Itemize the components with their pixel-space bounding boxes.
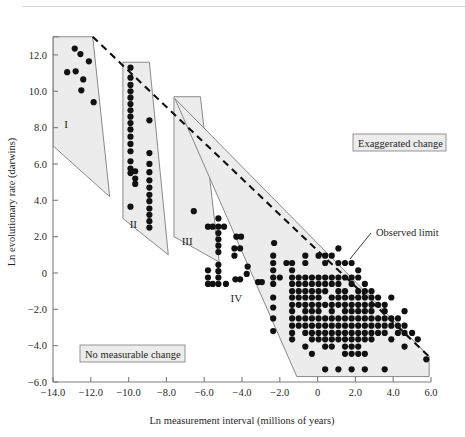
data-point bbox=[329, 336, 335, 342]
no-measurable-change-label: No measurable change bbox=[85, 349, 181, 360]
data-point bbox=[315, 302, 321, 308]
data-point bbox=[362, 315, 368, 321]
data-point bbox=[221, 224, 227, 230]
data-point bbox=[302, 253, 308, 259]
data-point bbox=[309, 323, 315, 329]
data-point bbox=[335, 245, 341, 251]
data-point bbox=[146, 161, 152, 167]
data-point bbox=[127, 75, 133, 81]
data-point bbox=[329, 323, 335, 329]
data-point bbox=[289, 323, 295, 329]
data-point bbox=[355, 351, 361, 357]
region-label-IV: IV bbox=[230, 292, 242, 304]
data-point bbox=[302, 330, 308, 336]
data-point bbox=[355, 323, 361, 329]
data-point bbox=[289, 267, 295, 273]
data-point bbox=[395, 315, 401, 321]
observed-limit-label: Observed limit bbox=[376, 227, 439, 238]
data-point bbox=[342, 351, 348, 357]
data-point bbox=[64, 69, 70, 75]
data-point bbox=[205, 281, 211, 287]
annotation-no-measurable-change: No measurable change bbox=[80, 345, 185, 362]
data-point bbox=[355, 302, 361, 308]
data-point bbox=[127, 107, 133, 113]
data-point bbox=[231, 253, 237, 259]
data-point bbox=[342, 302, 348, 308]
figure-container: −6.0−4.0−2.002.04.06.08.010.012.0−14.0−1… bbox=[0, 0, 465, 437]
data-point bbox=[355, 308, 361, 314]
data-point bbox=[296, 302, 302, 308]
data-point bbox=[296, 323, 302, 329]
region-label-I: I bbox=[64, 118, 68, 130]
data-point bbox=[296, 281, 302, 287]
data-point bbox=[132, 181, 138, 187]
y-axis-title: Ln evolutionary rate (darwins) bbox=[6, 137, 18, 266]
y-tick-label: 0 bbox=[42, 268, 47, 279]
data-point bbox=[315, 294, 321, 300]
data-point bbox=[302, 260, 308, 266]
data-point bbox=[309, 330, 315, 336]
data-point bbox=[355, 336, 361, 342]
y-tick-label: 10.0 bbox=[29, 86, 47, 97]
data-point bbox=[349, 351, 355, 357]
data-point bbox=[146, 169, 152, 175]
data-point bbox=[355, 267, 361, 273]
data-point bbox=[388, 315, 394, 321]
data-point bbox=[349, 343, 355, 349]
data-point bbox=[127, 95, 133, 101]
data-point bbox=[342, 323, 348, 329]
data-point bbox=[401, 343, 407, 349]
data-point bbox=[302, 281, 308, 287]
data-point bbox=[349, 260, 355, 266]
data-point bbox=[309, 288, 315, 294]
x-tick-label: 0 bbox=[315, 387, 320, 398]
data-point bbox=[401, 323, 407, 329]
data-point bbox=[72, 45, 78, 51]
data-point bbox=[349, 274, 355, 280]
data-point bbox=[270, 267, 276, 273]
data-point bbox=[127, 65, 133, 71]
data-point bbox=[362, 336, 368, 342]
data-point bbox=[289, 302, 295, 308]
data-point bbox=[237, 276, 243, 282]
data-point bbox=[388, 336, 394, 342]
data-point bbox=[283, 260, 289, 266]
data-point bbox=[409, 330, 415, 336]
data-point bbox=[362, 302, 368, 308]
data-point bbox=[349, 294, 355, 300]
data-point bbox=[271, 240, 277, 246]
data-point bbox=[77, 51, 83, 57]
data-point bbox=[375, 323, 381, 329]
data-point bbox=[329, 315, 335, 321]
data-point bbox=[309, 315, 315, 321]
region-label-II: II bbox=[130, 218, 138, 230]
data-point bbox=[215, 243, 221, 249]
data-point bbox=[270, 304, 276, 310]
data-point bbox=[423, 356, 429, 362]
data-point bbox=[289, 260, 295, 266]
data-point bbox=[270, 281, 276, 287]
data-point bbox=[375, 330, 381, 336]
data-point bbox=[315, 253, 321, 259]
x-tick-label: 6.0 bbox=[424, 387, 437, 398]
data-point bbox=[80, 76, 86, 82]
data-point bbox=[215, 249, 221, 255]
data-point bbox=[215, 224, 221, 230]
data-point bbox=[289, 288, 295, 294]
data-point bbox=[215, 281, 221, 287]
data-point bbox=[362, 294, 368, 300]
data-point bbox=[277, 274, 283, 280]
x-tick-label: −6.0 bbox=[195, 387, 214, 398]
data-point bbox=[342, 288, 348, 294]
data-point bbox=[349, 302, 355, 308]
data-point bbox=[127, 204, 133, 210]
data-point bbox=[215, 236, 221, 242]
data-point bbox=[309, 336, 315, 342]
region-polygon-I bbox=[53, 37, 110, 197]
data-point bbox=[342, 274, 348, 280]
data-point bbox=[368, 288, 374, 294]
data-point bbox=[210, 224, 216, 230]
x-tick-label: 2.0 bbox=[349, 387, 362, 398]
data-point bbox=[382, 366, 388, 372]
data-point bbox=[322, 366, 328, 372]
